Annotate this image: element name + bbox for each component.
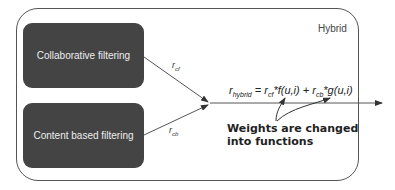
annotation-pointer-2 [277, 98, 330, 121]
annotation-line-2: into functions [227, 135, 358, 148]
cf-edge-label: rcf [172, 60, 180, 72]
weights-annotation: Weights are changed into functions [227, 122, 358, 148]
cb-edge-label: rcb [169, 125, 178, 137]
annotation-line-1: Weights are changed [227, 122, 358, 135]
hybrid-formula: rhybrid = rcf*f(u,i) + rcb*g(u,i) [229, 84, 353, 98]
